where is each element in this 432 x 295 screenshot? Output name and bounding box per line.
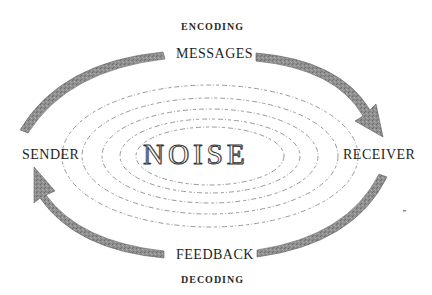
messages-label: MESSAGES [176,46,253,62]
decoding-label: DECODING [181,274,244,285]
noise-label: NOISE [143,138,248,171]
feedback-label: FEEDBACK [176,247,254,263]
communication-diagram: ENCODING MESSAGES SENDER RECEIVER FEEDBA… [0,0,432,295]
receiver-label: RECEIVER [343,147,415,163]
encoding-label: ENCODING [181,21,244,32]
stray-mark [403,210,406,212]
sender-label: SENDER [22,147,79,163]
arrow-arc-bottom-right [257,174,387,257]
arrow-feedback-to-sender [34,167,164,258]
arrow-messages-to-receiver [256,53,383,137]
